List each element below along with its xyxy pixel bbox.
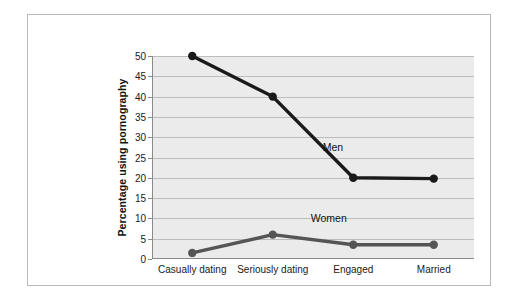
chart-figure: 05101520253035404550 Percentage using po… [0, 0, 516, 302]
data-point-men [188, 52, 196, 60]
data-point-women [349, 241, 357, 249]
figure-frame: 05101520253035404550 Percentage using po… [27, 14, 491, 286]
series-line-men [192, 56, 434, 179]
data-point-women [269, 230, 277, 238]
data-point-men [269, 92, 277, 100]
x-tick-label: Married [417, 264, 451, 275]
data-point-men [430, 174, 438, 182]
data-point-men [349, 174, 357, 182]
y-axis-title: Percentage using pornography [114, 56, 130, 259]
x-tick-label: Engaged [333, 264, 373, 275]
y-tick-mark [148, 259, 152, 260]
x-tick-label: Casually dating [158, 264, 226, 275]
series-label-women: Women [311, 212, 347, 224]
series-layer [152, 56, 474, 259]
series-label-men: Men [323, 141, 343, 153]
data-point-women [430, 241, 438, 249]
series-line-women [192, 235, 434, 253]
data-point-women [188, 249, 196, 257]
x-tick-label: Seriously dating [237, 264, 308, 275]
